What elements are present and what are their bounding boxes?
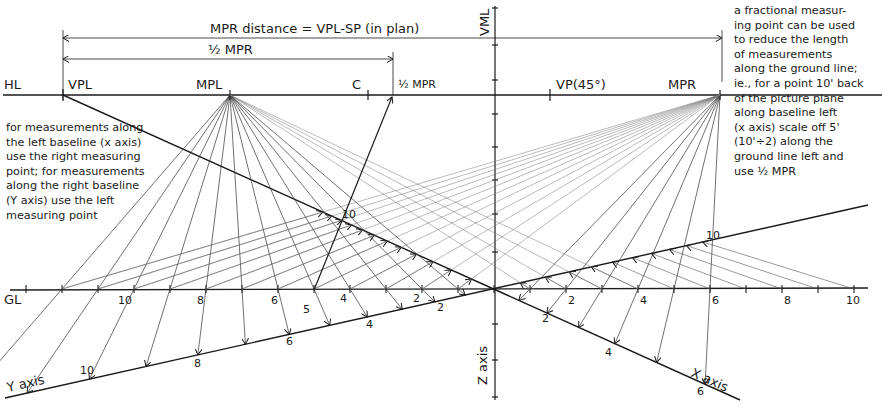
construction-line — [350, 95, 720, 289]
dimension-lines — [63, 30, 722, 100]
tick-label: 10 — [342, 208, 356, 221]
construction-line — [314, 95, 720, 289]
construction-line — [98, 95, 720, 289]
construction-line — [230, 95, 289, 334]
tick-label: 2 — [542, 312, 549, 325]
left-baseline-x-axis — [63, 95, 740, 400]
construction-line — [615, 95, 720, 344]
half-mpr-point-label: ½ MPR — [398, 78, 436, 91]
mpl-label: MPL — [196, 77, 223, 92]
gl-label: GL — [4, 292, 22, 307]
construction-line — [669, 249, 782, 289]
construction-line — [198, 95, 230, 355]
mpr-label: MPR — [668, 77, 696, 92]
tick-label: 2 — [568, 294, 575, 307]
construction-line — [230, 95, 638, 289]
y-axis-label: Y axis — [4, 372, 46, 395]
tick-label: 4 — [640, 294, 647, 307]
tick-labels: 10865422468102468102461010 — [80, 208, 860, 398]
construction-line — [146, 95, 230, 366]
tick-label: 2 — [413, 292, 420, 305]
construction-line — [703, 242, 854, 289]
tick-label: 2 — [437, 301, 444, 314]
construction-line — [579, 95, 720, 327]
tick-label: 4 — [340, 292, 347, 305]
tick-label: 6 — [271, 294, 278, 307]
construction-line — [230, 95, 530, 289]
construction-line — [242, 95, 720, 289]
tick-label: 10 — [118, 294, 132, 307]
z-axis-label: Z axis — [475, 346, 490, 385]
hl-ticks — [63, 8, 720, 397]
mpr-distance-label: MPR distance = VPL-SP (in plan) — [210, 21, 419, 36]
construction-line — [230, 95, 245, 344]
construction-line — [230, 95, 602, 289]
note-left-measuring-points: for measurements along the left baseline… — [6, 121, 145, 223]
vml-label: VML — [477, 8, 492, 36]
construction-line — [134, 95, 720, 289]
construction-line — [230, 95, 435, 302]
tick-label: 4 — [366, 318, 373, 331]
construction-line — [632, 258, 710, 289]
half-mpr-ray — [314, 97, 392, 290]
x-axis-label: X axis — [689, 365, 731, 395]
half-mpr-dimension-label: ½ MPR — [208, 42, 253, 57]
tick-label: 10 — [706, 229, 720, 242]
tick-label: 10 — [846, 294, 860, 307]
construction-line — [613, 262, 674, 289]
tick-label: 6 — [286, 335, 293, 348]
tick-label: 5 — [303, 303, 310, 316]
tick-label: 10 — [80, 364, 94, 377]
construction-line — [386, 95, 720, 289]
tick-label: 8 — [784, 294, 791, 307]
c-label: C — [352, 77, 361, 92]
note-fractional-measuring-point: a fractional measur- ing point can be us… — [734, 4, 864, 179]
construction-line — [422, 95, 720, 289]
construction-line — [230, 95, 330, 325]
construction-line — [519, 95, 720, 300]
vp45-label: VP(45°) — [556, 77, 606, 92]
hl-label: HL — [4, 77, 22, 92]
construction-line — [686, 246, 818, 289]
tick-label: 4 — [605, 346, 612, 359]
construction-line — [230, 95, 367, 317]
tick-label: 6 — [712, 294, 719, 307]
tick-label: 6 — [697, 385, 704, 398]
vpl-label: VPL — [68, 77, 93, 92]
tick-label: 8 — [197, 294, 204, 307]
ground-line — [10, 288, 868, 290]
construction-line — [230, 95, 465, 295]
construction-line — [230, 95, 566, 289]
tick-label: 8 — [194, 357, 201, 370]
